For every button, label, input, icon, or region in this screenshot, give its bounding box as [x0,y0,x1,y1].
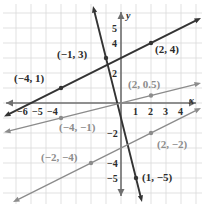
point-label-2-4: (2, 4) [155,44,179,55]
y-tick-minus4: −4 [107,159,118,169]
point-label-2-minus2: (2, −2) [157,139,187,150]
x-tick-minus4: −4 [47,107,58,117]
x-tick-3: 3 [163,107,168,117]
gridlines [3,4,202,204]
point-label-minus4-minus1: (−4, −1) [59,122,95,133]
x-tick-minus6: −6 [17,107,28,117]
x-tick-1: 1 [133,107,138,117]
coordinate-plane-figure: x y −6 −5 −4 1 2 3 4 5 4 2 −2 −4 −5 (−1,… [0,0,205,207]
x-tick-minus5: −5 [32,107,43,117]
point-label-2-05: (2, 0.5) [128,79,160,90]
x-tick-2: 2 [148,107,153,117]
point-label-1-minus5: (1, −5) [142,172,172,183]
x-tick-4: 4 [178,107,183,117]
point-label-minus2-minus4: (−2, −4) [41,152,77,163]
point-label-minus1-3: (−1, 3) [57,49,87,60]
x-axis-label: x [189,96,194,106]
point-label-minus4-1: (−4, 1) [14,73,44,84]
graph-canvas [0,0,205,207]
y-axis-label: y [126,11,130,21]
y-tick-2: 2 [112,69,117,79]
y-tick-minus5: −5 [107,174,118,184]
y-tick-minus2: −2 [107,129,118,139]
y-tick-4: 4 [112,39,117,49]
y-tick-5: 5 [112,24,117,34]
